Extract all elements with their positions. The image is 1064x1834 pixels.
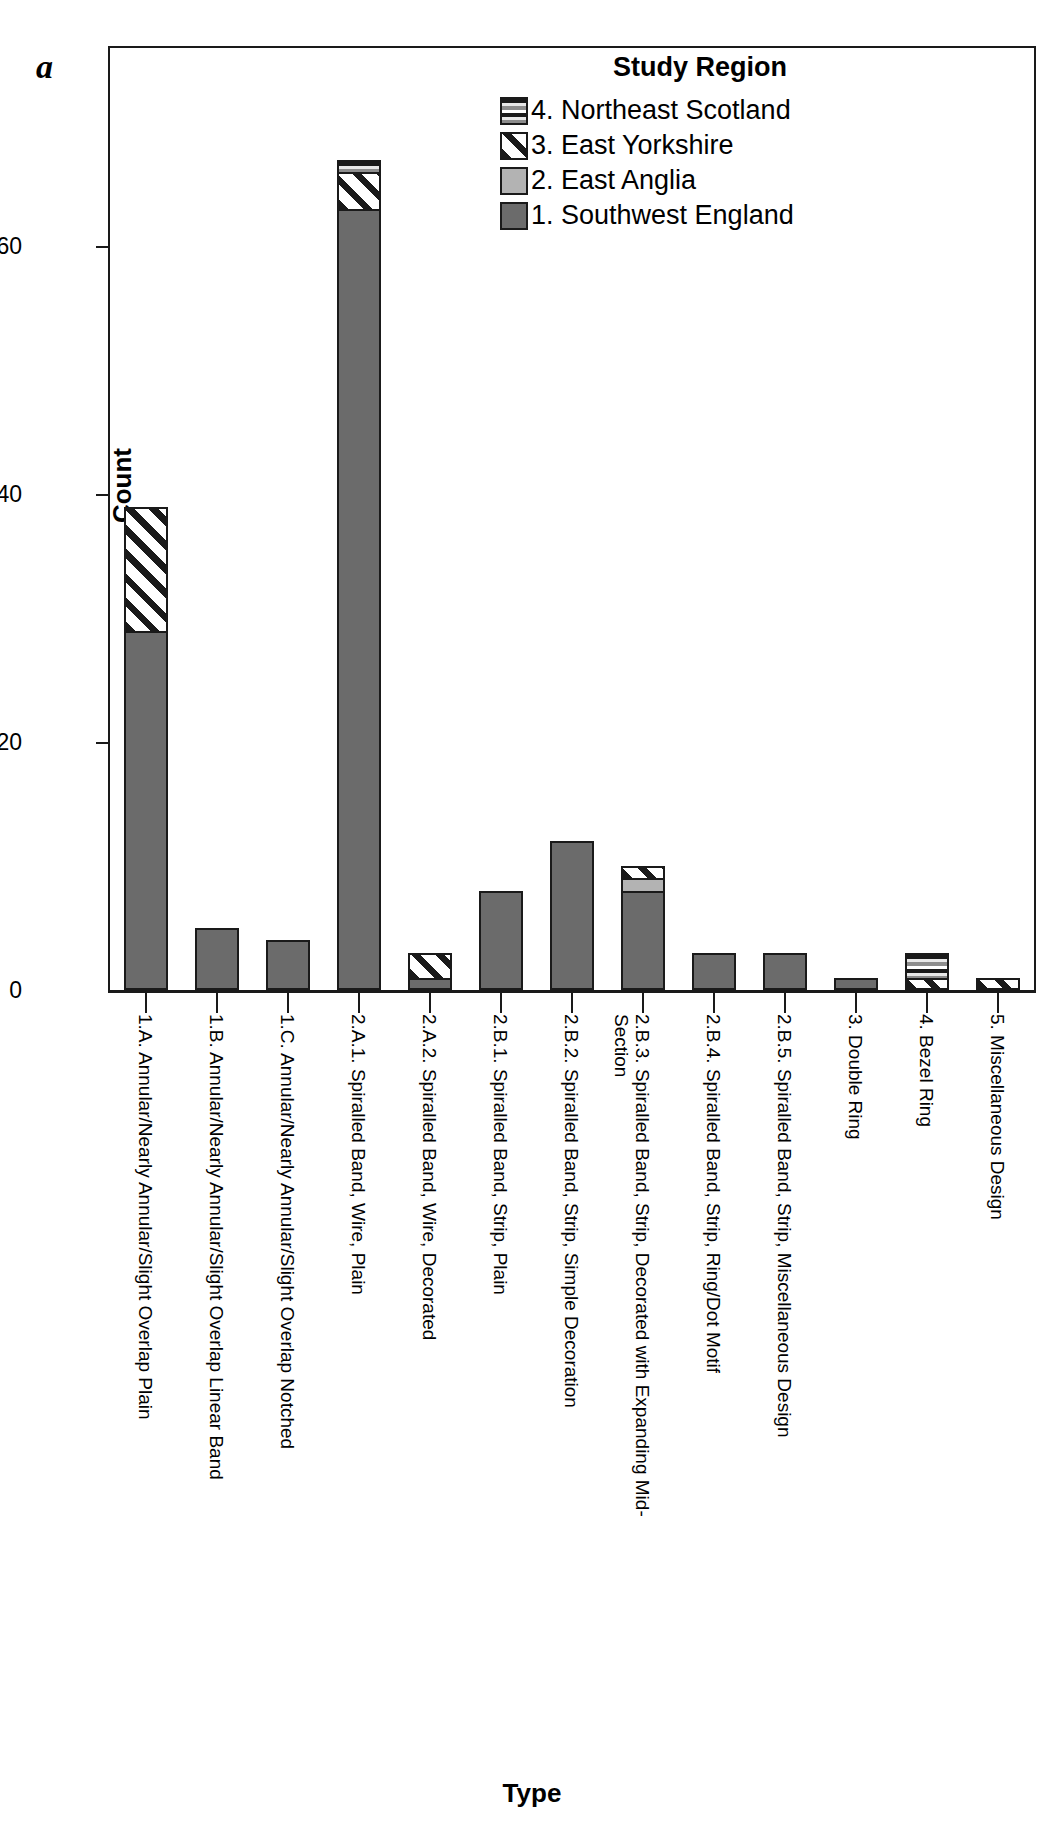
x-tick-mark	[216, 993, 218, 1013]
bar-group[interactable]	[266, 940, 310, 990]
x-tick-label: 4. Bezel Ring	[916, 1014, 937, 1534]
bar-segment-r1[interactable]	[550, 841, 594, 990]
x-axis-title: Type	[0, 1778, 1064, 1809]
x-tick-label: 2.B.2. Spiralled Band, Strip, Simple Dec…	[561, 1014, 582, 1534]
legend-swatch-diagonal-hatch-icon	[500, 132, 528, 160]
legend-item-r1[interactable]: 1. Southwest England	[500, 200, 900, 231]
bar-group[interactable]	[195, 928, 239, 990]
bar-group[interactable]	[763, 953, 807, 990]
y-tick-mark-20	[96, 742, 108, 744]
x-tick-mark	[287, 993, 289, 1013]
legend-swatch-solid-icon	[500, 202, 528, 230]
y-tick-label-40: 40	[0, 483, 22, 506]
bar-segment-r1[interactable]	[124, 631, 168, 990]
bar-segment-r1[interactable]	[337, 209, 381, 990]
bar-segment-r4[interactable]	[905, 953, 949, 978]
legend-item-label: 4. Northeast Scotland	[531, 95, 791, 126]
bar-segment-r1[interactable]	[195, 928, 239, 990]
x-tick-label: 2.B.1. Spiralled Band, Strip, Plain	[490, 1014, 511, 1534]
bar-group[interactable]	[834, 978, 878, 990]
x-tick-label: 2.A.2. Spiralled Band, Wire, Decorated	[419, 1014, 440, 1534]
legend-item-r3[interactable]: 3. East Yorkshire	[500, 130, 900, 161]
y-tick-mark-60	[96, 246, 108, 248]
legend-item-r4[interactable]: 4. Northeast Scotland	[500, 95, 900, 126]
x-tick-label: 2.A.1. Spiralled Band, Wire, Plain	[348, 1014, 369, 1534]
bar-segment-r3[interactable]	[408, 953, 452, 978]
x-tick-mark	[571, 993, 573, 1013]
x-tick-label: 5. Miscellaneous Design	[987, 1014, 1008, 1534]
bar-segment-r3[interactable]	[124, 507, 168, 631]
bar-segment-r3[interactable]	[337, 172, 381, 209]
bar-group[interactable]	[124, 507, 168, 990]
bar-segment-r4[interactable]	[337, 160, 381, 172]
x-tick-mark	[500, 993, 502, 1013]
x-tick-mark	[642, 993, 644, 1013]
bar-segment-r3[interactable]	[905, 978, 949, 990]
x-tick-mark	[713, 993, 715, 1013]
bar-group[interactable]	[479, 891, 523, 990]
bar-group[interactable]	[905, 953, 949, 990]
bar-group[interactable]	[337, 160, 381, 990]
bar-group[interactable]	[976, 978, 1020, 990]
x-tick-mark	[145, 993, 147, 1013]
x-tick-mark	[358, 993, 360, 1013]
y-tick-label-0: 0	[0, 979, 22, 1002]
legend-item-label: 2. East Anglia	[531, 165, 696, 196]
bar-group[interactable]	[408, 953, 452, 990]
bar-group[interactable]	[621, 866, 665, 990]
legend-item-label: 1. Southwest England	[531, 200, 794, 231]
bar-segment-r2[interactable]	[621, 878, 665, 890]
legend-title: Study Region	[500, 52, 900, 83]
x-tick-mark	[926, 993, 928, 1013]
x-tick-label: 2.B.4. Spiralled Band, Strip, Ring/Dot M…	[703, 1014, 724, 1534]
y-tick-mark-40	[96, 494, 108, 496]
legend-item-label: 3. East Yorkshire	[531, 130, 734, 161]
bar-group[interactable]	[550, 841, 594, 990]
bar-segment-r1[interactable]	[408, 978, 452, 990]
x-tick-label: 1.C. Annular/Nearly Annular/Slight Overl…	[277, 1014, 298, 1534]
x-tick-label: 1.B. Annular/Nearly Annular/Slight Overl…	[206, 1014, 227, 1534]
bar-segment-r1[interactable]	[621, 891, 665, 990]
bar-segment-r1[interactable]	[834, 978, 878, 990]
legend: Study Region 4. Northeast Scotland3. Eas…	[500, 52, 900, 235]
y-tick-label-20: 20	[0, 731, 22, 754]
y-tick-label-60: 60	[0, 235, 22, 258]
bar-segment-r1[interactable]	[763, 953, 807, 990]
bar-segment-r1[interactable]	[479, 891, 523, 990]
bar-segment-r1[interactable]	[266, 940, 310, 990]
legend-swatch-solid-icon	[500, 167, 528, 195]
legend-swatch-horizontal-lines-icon	[500, 97, 528, 125]
bar-segment-r1[interactable]	[692, 953, 736, 990]
bar-segment-r3[interactable]	[976, 978, 1020, 990]
legend-items: 4. Northeast Scotland3. East Yorkshire2.…	[500, 95, 900, 231]
x-tick-label: 2.B.5. Spiralled Band, Strip, Miscellane…	[774, 1014, 795, 1534]
panel-letter: a	[36, 48, 53, 86]
legend-item-r2[interactable]: 2. East Anglia	[500, 165, 900, 196]
x-tick-mark	[855, 993, 857, 1013]
bar-segment-r3[interactable]	[621, 866, 665, 878]
x-tick-label: 3. Double Ring	[845, 1014, 866, 1534]
x-tick-mark	[784, 993, 786, 1013]
x-tick-label: 1.A. Annular/Nearly Annular/Slight Overl…	[135, 1014, 156, 1534]
x-tick-label: 2.B.3. Spiralled Band, Strip, Decorated …	[611, 1014, 653, 1534]
x-tick-mark	[429, 993, 431, 1013]
x-tick-mark	[997, 993, 999, 1013]
bar-group[interactable]	[692, 953, 736, 990]
